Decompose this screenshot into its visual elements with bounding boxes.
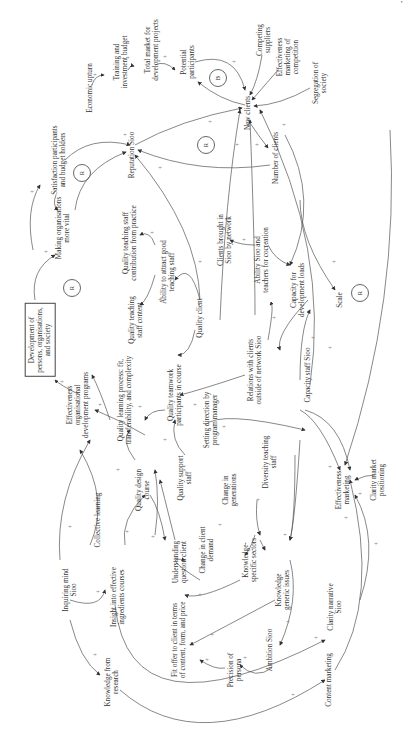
polarity-plus: + [198,258,202,266]
node-quality-client: Quality client [196,298,204,337]
node-quality-teaching-content: Quality teaching staff content [128,296,144,344]
node-clarity-narrative: Clarity narrative Sioo [327,583,343,630]
loop-marker-reinforcing: R [63,279,81,297]
polarity-plus: + [256,496,260,504]
polarity-plus: + [98,401,102,409]
polarity-plus: + [328,344,332,352]
page-mark: ’ [400,0,403,9]
polarity-plus: + [30,188,34,196]
polarity-plus: + [208,118,212,126]
polarity-plus: + [60,378,64,386]
node-knowledge-specific: Knowledge- specific sectors [242,538,258,582]
loop-marker-reinforcing: R [197,136,215,154]
node-scale: Scale [336,292,344,308]
polarity-plus: + [243,654,247,662]
node-inquiring-mind: Inquiring mind Sioo [62,568,78,611]
loop-marker-reinforcing: R [73,164,91,182]
polarity-plus: + [193,401,197,409]
polarity-plus: + [158,296,162,304]
polarity-plus: + [116,466,120,474]
polarity-plus: + [232,58,236,66]
node-segregation-society: Segregation of society [312,62,328,104]
polarity-plus: + [242,236,246,244]
node-competing-suppliers: Competing suppliers [256,24,272,56]
node-number-of-clients: Number of clients [272,132,280,184]
polarity-plus: + [328,463,332,471]
node-insight-courses: Insight into effective ingredients cours… [110,567,126,627]
polarity-plus: + [272,314,276,322]
polarity-plus: + [123,131,127,139]
polarity-plus: + [218,521,222,529]
node-training-budget: Training and investment budget [113,36,129,89]
polarity-plus: + [210,631,214,639]
node-ambition-sioo: Ambition Sioo [266,629,274,672]
polarity-plus: + [198,591,202,599]
node-fit-offer: Fit offer to client in terms of content,… [171,602,187,679]
node-relations-clients: Relations with clients outside of networ… [247,336,263,405]
polarity-plus: + [222,423,226,431]
node-change-generations: Change in generations [222,473,238,506]
node-clients-by-network: Clients brought in Sioo by network [217,214,233,266]
polarity-plus: + [158,164,162,172]
node-potential-participants: Potential participants [180,45,196,79]
polarity-plus: + [96,588,100,596]
node-effectiveness-org-programs: Effectiveness organisational development… [66,372,91,438]
node-change-client-demand: Change in client demand [199,526,215,573]
node-diversity-teaching: Diversity teaching staff [262,436,278,489]
polarity-plus: + [138,403,142,411]
polarity-plus: + [255,141,259,149]
polarity-plus: + [44,248,48,256]
polarity-plus: + [358,490,362,498]
polarity-plus: + [314,634,318,642]
node-content-marketing: Content marketing [325,653,333,707]
loop-marker-reinforcing: R [351,284,369,302]
polarity-plus: + [286,618,290,626]
polarity-plus: + [126,54,130,62]
node-effectiveness-marketing: Effectiveness marketing [335,471,351,510]
polarity-plus: + [291,691,295,699]
polarity-plus: + [282,121,286,129]
polarity-plus: + [125,528,129,536]
polarity-plus: + [93,651,97,659]
polarity-plus: + [68,523,72,531]
node-knowledge-research: Knowledge from research [104,658,120,707]
node-precision-persona: Precision of persona [227,653,243,688]
node-making-organisations-vital: Making organisations more vital [55,197,71,259]
polarity-plus: + [332,258,336,266]
node-satisfaction: Satisfaction participants and budget hol… [51,125,67,194]
node-quality-design-course: Quality design course [135,469,151,511]
polarity-plus: + [205,656,209,664]
node-setting-direction: Setting direction by program manager [203,392,219,449]
node-ability-attract-staff: Ability to attract good teaching staff [160,240,176,304]
polarity-plus: + [150,229,154,237]
node-knowledge-generic: Knowledge generic issues [275,570,291,610]
node-quality-teamwork: Quality teamwork participants in course [167,364,183,425]
polarity-plus: + [283,531,287,539]
connection-arrows [0,0,409,746]
node-clarity-market: Clarity market positioning [370,459,386,501]
polarity-plus: + [311,334,315,342]
node-ability-cocreation: Ability Sioo and teachers for cocreation [254,227,270,292]
node-quality-teaching-practice: Quality teaching staff contribution from… [122,205,138,280]
node-capacity-dev-loads: Capacity for development loads [290,263,306,317]
polarity-plus: + [374,540,378,548]
node-quality-learning-process: Quality learning process: fit, transfera… [117,356,133,444]
loop-marker-balancing: B [209,69,227,87]
polarity-plus: + [235,141,239,149]
node-development-persons: Development of persons, organisations, a… [25,303,56,377]
node-capacity-staff: Capacity staff Sioo [304,348,312,403]
node-effectiveness-marketing-competition: Effectiveness marketing of competition [276,38,301,77]
polarity-plus: + [163,436,167,444]
polarity-plus: + [163,53,167,61]
polarity-plus: + [93,71,97,79]
node-understanding-client: Understanding question client [172,541,188,583]
node-total-market: Total market for development projects [144,19,160,81]
polarity-plus: + [151,533,155,541]
polarity-plus: + [344,514,348,522]
causal-loop-diagram: ’ Economic upturn Training and investmen… [0,0,409,746]
node-quality-support-staff: Quality support staff [177,456,193,501]
node-reputation-sioo: Reputation Sioo [128,132,136,179]
node-collective-learning: Collective learning [94,493,102,548]
node-new-clients: New clients [244,96,252,130]
